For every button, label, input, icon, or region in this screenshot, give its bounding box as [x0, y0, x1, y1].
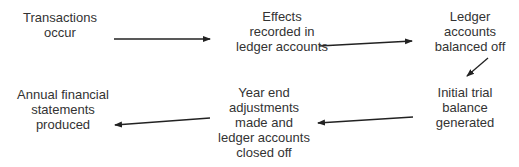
node-line: made and [204, 115, 324, 130]
node-line: statements [8, 102, 118, 117]
node-line: ledger accounts [222, 39, 342, 54]
arrow-n4-n5 [318, 117, 413, 123]
node-transactions-occur: Transactions occur [10, 10, 110, 40]
node-line: balance [420, 100, 510, 115]
node-line: balanced off [420, 39, 519, 54]
node-line: accounts [420, 24, 519, 39]
node-line: closed off [204, 145, 324, 160]
arrow-n5-n6 [115, 118, 210, 125]
node-initial-trial-balance: Initial trial balance generated [420, 85, 510, 130]
node-line: Transactions [10, 10, 110, 25]
node-year-end-adjustments: Year end adjustments made and ledger acc… [204, 85, 324, 160]
node-effects-recorded: Effects recorded in ledger accounts [222, 9, 342, 54]
node-line: Effects [222, 9, 342, 24]
node-line: produced [8, 117, 118, 132]
node-line: Year end [204, 85, 324, 100]
node-line: Annual financial [8, 87, 118, 102]
arrow-n3-n4 [467, 58, 488, 76]
node-annual-financial-statements: Annual financial statements produced [8, 87, 118, 132]
node-line: ledger accounts [204, 130, 324, 145]
node-line: generated [420, 115, 510, 130]
node-line: Initial trial [420, 85, 510, 100]
node-line: occur [10, 25, 110, 40]
node-line: recorded in [222, 24, 342, 39]
node-line: Ledger [420, 9, 519, 24]
node-line: adjustments [204, 100, 324, 115]
node-ledger-balanced-off: Ledger accounts balanced off [420, 9, 519, 54]
